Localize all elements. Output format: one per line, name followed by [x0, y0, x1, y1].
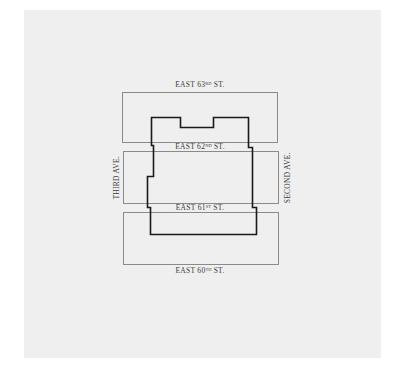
street-label-east-63rd: EAST 63RD ST. — [122, 81, 278, 89]
street-label-east-62nd: EAST 62ND ST. — [122, 143, 278, 151]
street-label-east-60th: EAST 60TH ST. — [122, 267, 278, 275]
street-type: ST. — [211, 203, 224, 212]
street-type: ST. — [211, 266, 224, 275]
city-block-60-61 — [123, 212, 279, 265]
street-type: ST. — [212, 80, 225, 89]
avenue-label-third-ave: THIRD AVE. — [113, 148, 121, 208]
city-block-61-62 — [123, 151, 279, 204]
city-block-62-63 — [122, 92, 278, 143]
street-name: EAST 63 — [175, 80, 205, 89]
street-name: EAST 60 — [175, 266, 205, 275]
avenue-label-second-ave: SECOND AVE. — [284, 146, 292, 210]
street-name: EAST 61 — [176, 203, 206, 212]
street-label-east-61st: EAST 61ST ST. — [122, 204, 278, 212]
street-name: EAST 62 — [175, 142, 205, 151]
street-type: ST. — [212, 142, 225, 151]
